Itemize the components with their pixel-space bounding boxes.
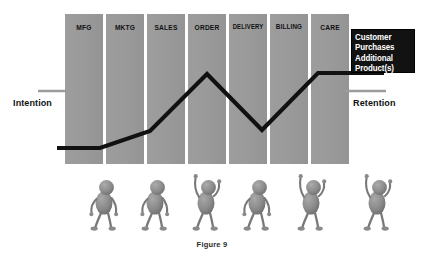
column-label-order: ORDER (190, 24, 225, 31)
callout-line-2: Purchases (355, 42, 409, 52)
callout-line-1: Customer (355, 32, 409, 42)
column-label-care: CARE (313, 24, 348, 31)
figure-caption: Figure 9 (0, 240, 424, 249)
figure-container: MFG MKTG SALES ORDER DELIVERY BILLING CA… (0, 0, 424, 265)
column-sales (147, 14, 185, 164)
column-label-mfg: MFG (67, 24, 102, 31)
column-care (311, 14, 349, 164)
callout-line-3: Additional (355, 53, 409, 63)
column-label-mktg: MKTG (108, 24, 143, 31)
callout-box: Customer Purchases Additional Product(s) (351, 29, 415, 73)
callout-line-4: Product(s) (355, 63, 409, 73)
retention-label: Retention (353, 98, 395, 108)
column-delivery (229, 14, 267, 164)
process-columns (65, 14, 349, 164)
column-label-sales: SALES (149, 24, 184, 31)
column-mfg (65, 14, 103, 164)
column-label-billing: BILLING (272, 24, 307, 31)
column-label-delivery: DELIVERY (231, 24, 266, 30)
intention-label: Intention (13, 98, 52, 108)
